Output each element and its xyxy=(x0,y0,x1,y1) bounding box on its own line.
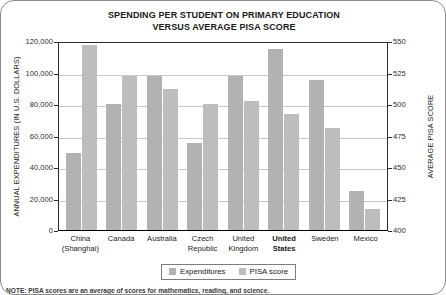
bar-pisa-score xyxy=(203,104,218,230)
y-axis-label-right: AVERAGE PISA SCORE xyxy=(425,42,437,231)
bar-expenditures xyxy=(309,80,324,230)
legend-label-pisa: PISA score xyxy=(250,267,289,276)
x-axis-label: Mexico xyxy=(345,234,386,253)
y-tick-mark-left xyxy=(54,231,58,232)
legend-swatch-expenditures xyxy=(169,268,176,275)
y-tick-mark-right xyxy=(388,231,392,232)
y-tick-mark-left xyxy=(54,168,58,169)
bar-pisa-score xyxy=(244,101,259,230)
bar-expenditures xyxy=(147,76,162,230)
bar-group xyxy=(183,43,224,230)
bar-group xyxy=(223,43,264,230)
y-tick-mark-right xyxy=(388,168,392,169)
y-tick-label-right: 525 xyxy=(393,69,406,78)
bar-expenditures xyxy=(268,49,283,230)
legend-item-expenditures: Expenditures xyxy=(169,267,226,276)
x-axis-label: Sweden xyxy=(305,234,346,253)
chart-note: NOTE: PISA scores are an average of scor… xyxy=(6,287,269,294)
x-axis-label: China(Shanghai) xyxy=(60,234,101,253)
x-axis-label: UnitedStates xyxy=(264,234,305,253)
y-tick-mark-right xyxy=(388,105,392,106)
y-tick-mark-right xyxy=(388,137,392,138)
y-tick-label-left: 80,000 xyxy=(30,100,53,109)
y-tick-mark-right xyxy=(388,42,392,43)
bar-pisa-score xyxy=(122,76,137,230)
x-axis-label: Canada xyxy=(101,234,142,253)
bar-expenditures xyxy=(187,143,202,230)
y-tick-mark-right xyxy=(388,200,392,201)
legend-item-pisa: PISA score xyxy=(239,267,289,276)
chart-title-line-1: SPENDING PER STUDENT ON PRIMARY EDUCATIO… xyxy=(1,10,446,22)
chart-title-line-2: VERSUS AVERAGE PISA SCORE xyxy=(1,22,446,34)
bar-group xyxy=(142,43,183,230)
legend-swatch-pisa xyxy=(239,268,246,275)
bar-group xyxy=(304,43,345,230)
y-tick-mark-left xyxy=(54,74,58,75)
bar-groups xyxy=(59,43,387,230)
y-tick-label-right: 475 xyxy=(393,132,406,141)
y-tick-label-left: 100,000 xyxy=(26,69,53,78)
bar-pisa-score xyxy=(82,45,97,230)
bar-group xyxy=(61,43,102,230)
y-tick-label-left: 20,000 xyxy=(30,195,53,204)
y-tick-label-right: 400 xyxy=(393,226,406,235)
y-tick-label-left: 120,000 xyxy=(26,37,53,46)
x-axis-label: UnitedKingdom xyxy=(223,234,264,253)
x-axis-labels: China(Shanghai)CanadaAustraliaCzechRepub… xyxy=(58,234,388,253)
bar-group xyxy=(345,43,386,230)
plot-area xyxy=(58,42,388,231)
x-axis-label: CzechRepublic xyxy=(182,234,223,253)
legend-label-expenditures: Expenditures xyxy=(180,267,226,276)
chart-legend: Expenditures PISA score xyxy=(161,264,296,280)
y-tick-mark-left xyxy=(54,42,58,43)
y-tick-label-right: 550 xyxy=(393,37,406,46)
bar-expenditures xyxy=(228,76,243,230)
bar-expenditures xyxy=(106,104,121,230)
bar-group xyxy=(264,43,305,230)
chart-page: SPENDING PER STUDENT ON PRIMARY EDUCATIO… xyxy=(0,0,446,295)
y-tick-label-right: 450 xyxy=(393,163,406,172)
y-tick-label-left: 0 xyxy=(49,226,53,235)
bar-pisa-score xyxy=(365,209,380,230)
bar-expenditures xyxy=(349,191,364,230)
y-tick-label-right: 425 xyxy=(393,195,406,204)
y-tick-label-left: 40,000 xyxy=(30,163,53,172)
bar-pisa-score xyxy=(284,114,299,230)
y-tick-mark-left xyxy=(54,200,58,201)
bar-pisa-score xyxy=(163,89,178,230)
y-tick-label-right: 500 xyxy=(393,100,406,109)
y-axis-label-left: ANNUAL EXPENDITURES (IN U.S. DOLLARS) xyxy=(11,42,23,231)
x-axis-label: Australia xyxy=(142,234,183,253)
bar-expenditures xyxy=(66,153,81,230)
chart-title: SPENDING PER STUDENT ON PRIMARY EDUCATIO… xyxy=(1,10,446,33)
bar-group xyxy=(102,43,143,230)
y-tick-label-left: 60,000 xyxy=(30,132,53,141)
y-tick-mark-left xyxy=(54,105,58,106)
bar-pisa-score xyxy=(325,128,340,230)
y-tick-mark-left xyxy=(54,137,58,138)
y-tick-mark-right xyxy=(388,74,392,75)
